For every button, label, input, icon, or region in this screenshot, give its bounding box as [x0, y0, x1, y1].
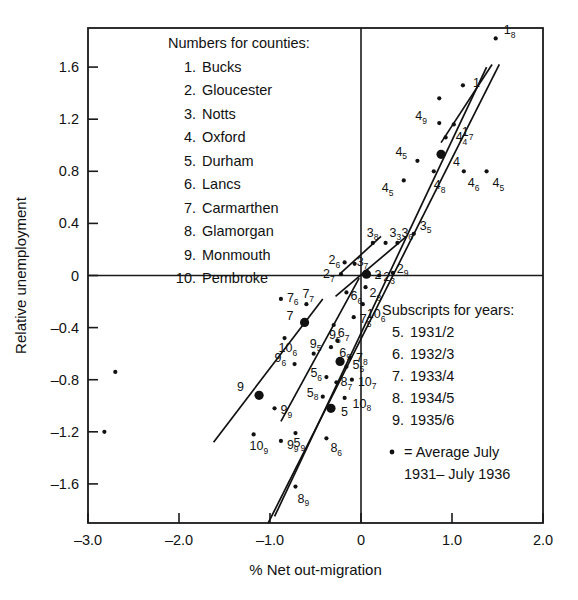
- county-legend-number: 8.: [184, 223, 196, 239]
- data-point: [462, 169, 466, 173]
- data-point: [383, 241, 387, 245]
- average-marker-icon: [390, 450, 395, 455]
- data-point: [344, 290, 348, 294]
- county-legend-heading: Numbers for counties:: [168, 35, 310, 51]
- average-point: [436, 150, 445, 159]
- y-tick-label: –0.4: [51, 320, 79, 336]
- data-point: [102, 430, 106, 434]
- year-legend-range-1933-4: 1933/4: [410, 368, 454, 384]
- average-point: [326, 404, 335, 413]
- point-label: 1: [473, 76, 480, 90]
- y-tick-label: –1.2: [51, 424, 79, 440]
- year-legend-heading: Subscripts for years:: [382, 302, 514, 318]
- data-point: [339, 272, 343, 276]
- data-point: [113, 370, 117, 374]
- y-tick-label: –1.6: [51, 476, 79, 492]
- data-point: [444, 135, 448, 139]
- data-point: [437, 121, 441, 125]
- data-point: [324, 375, 328, 379]
- year-legend-number: 9.: [392, 412, 404, 428]
- point-label: 5: [341, 405, 348, 419]
- data-point: [329, 345, 333, 349]
- year-legend-number: 7.: [392, 368, 404, 384]
- data-point: [332, 323, 336, 327]
- data-point: [452, 122, 456, 126]
- y-tick-label: –0.8: [51, 372, 79, 388]
- chart-root: –3.0–2.0–1.001.02.01.61.20.80.40–0.4–0.8…: [0, 0, 578, 600]
- year-legend-number: 6.: [392, 346, 404, 362]
- data-point: [321, 395, 325, 399]
- x-tick-label: 1.0: [442, 532, 462, 548]
- y-tick-label: 0.8: [59, 163, 79, 179]
- x-tick-label: –3.0: [74, 532, 102, 548]
- y-tick-label: 1.2: [59, 111, 79, 127]
- county-legend-number: 10.: [176, 270, 196, 286]
- data-point: [484, 169, 488, 173]
- county-legend-number: 2.: [184, 82, 196, 98]
- point-label: 9: [237, 380, 244, 394]
- data-point: [252, 432, 256, 436]
- y-axis-title: Relative unemployment: [12, 196, 29, 354]
- data-point: [437, 96, 441, 100]
- y-tick-label: 0.4: [59, 215, 79, 231]
- data-point: [391, 271, 395, 275]
- y-tick-label: 0: [71, 268, 79, 284]
- x-tick-label: –2.0: [165, 532, 193, 548]
- county-legend-item-bucks: Bucks: [202, 59, 242, 75]
- data-point: [343, 260, 347, 264]
- county-legend-item-notts: Notts: [202, 106, 236, 122]
- point-label: 2: [374, 268, 381, 282]
- data-point: [279, 439, 283, 443]
- year-legend-range-1931-2: 1931/2: [410, 324, 454, 340]
- county-legend-item-monmouth: Monmouth: [202, 247, 271, 263]
- county-legend-number: 1.: [184, 59, 196, 75]
- average-marker-label-line1: = Average July: [404, 444, 500, 460]
- data-point: [282, 336, 286, 340]
- average-point: [300, 318, 309, 327]
- county-legend-number: 6.: [184, 176, 196, 192]
- data-point: [432, 169, 436, 173]
- county-legend-number: 3.: [184, 106, 196, 122]
- county-legend-number: 4.: [184, 129, 196, 145]
- data-point: [293, 431, 297, 435]
- data-point: [402, 178, 406, 182]
- county-legend-number: 7.: [184, 200, 196, 216]
- data-point: [292, 362, 296, 366]
- data-point: [293, 484, 297, 488]
- data-point: [304, 302, 308, 306]
- average-marker-label-line2: 1931– July 1936: [404, 466, 510, 482]
- county-legend-number: 9.: [184, 247, 196, 263]
- data-point: [334, 380, 338, 384]
- data-point: [272, 406, 276, 410]
- x-tick-label: 2.0: [533, 532, 553, 548]
- county-legend-number: 5.: [184, 153, 196, 169]
- data-point: [415, 159, 419, 163]
- data-point: [461, 83, 465, 87]
- x-tick-label: 0: [357, 532, 365, 548]
- x-tick-label: –1.0: [256, 532, 284, 548]
- year-legend-range-1932-3: 1932/3: [410, 346, 454, 362]
- county-legend-item-gloucester: Gloucester: [202, 82, 272, 98]
- year-legend-number: 5.: [392, 324, 404, 340]
- year-legend-range-1934-5: 1934/5: [410, 390, 454, 406]
- county-legend-item-lancs: Lancs: [202, 176, 241, 192]
- data-point: [343, 396, 347, 400]
- data-point: [344, 365, 348, 369]
- data-point: [363, 285, 367, 289]
- county-legend-item-durham: Durham: [202, 153, 254, 169]
- scatter-plot: –3.0–2.0–1.001.02.01.61.20.80.40–0.4–0.8…: [0, 0, 578, 600]
- county-legend-item-pembroke: Pembroke: [202, 270, 268, 286]
- data-point: [324, 436, 328, 440]
- data-point: [494, 36, 498, 40]
- data-point: [352, 315, 356, 319]
- county-legend-item-oxford: Oxford: [202, 129, 246, 145]
- county-legend-item-glamorgan: Glamorgan: [202, 223, 274, 239]
- data-point: [279, 297, 283, 301]
- point-label: 7: [287, 309, 294, 323]
- year-legend-number: 8.: [392, 390, 404, 406]
- average-point: [254, 391, 263, 400]
- year-legend-range-1935-6: 1935/6: [410, 412, 454, 428]
- y-tick-label: 1.6: [59, 59, 79, 75]
- county-legend-item-carmarthen: Carmarthen: [202, 200, 279, 216]
- data-point: [312, 352, 316, 356]
